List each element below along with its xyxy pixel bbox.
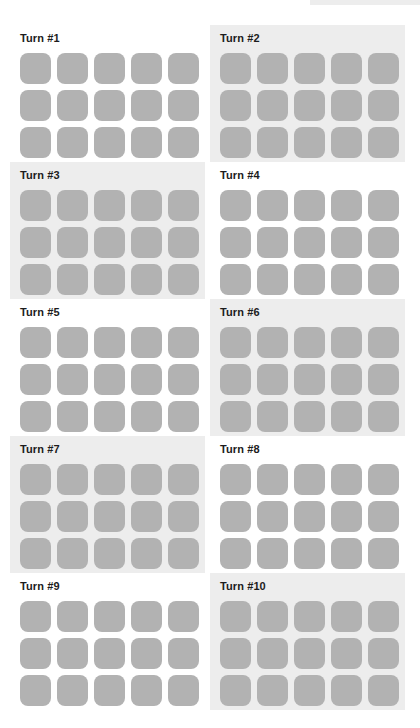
grid-tile[interactable] bbox=[20, 675, 51, 706]
grid-tile[interactable] bbox=[257, 90, 288, 121]
turn-panel[interactable]: Turn #8 bbox=[210, 436, 405, 573]
turn-panel[interactable]: Turn #2 bbox=[210, 25, 405, 162]
grid-tile[interactable] bbox=[131, 538, 162, 569]
grid-tile[interactable] bbox=[168, 264, 199, 295]
grid-tile[interactable] bbox=[294, 127, 325, 158]
grid-tile[interactable] bbox=[168, 53, 199, 84]
grid-tile[interactable] bbox=[131, 90, 162, 121]
grid-tile[interactable] bbox=[168, 190, 199, 221]
grid-tile[interactable] bbox=[94, 264, 125, 295]
grid-tile[interactable] bbox=[57, 364, 88, 395]
grid-tile[interactable] bbox=[57, 53, 88, 84]
grid-tile[interactable] bbox=[168, 538, 199, 569]
grid-tile[interactable] bbox=[94, 90, 125, 121]
grid-tile[interactable] bbox=[220, 53, 251, 84]
grid-tile[interactable] bbox=[94, 638, 125, 669]
grid-tile[interactable] bbox=[368, 675, 399, 706]
grid-tile[interactable] bbox=[368, 364, 399, 395]
turn-panel[interactable]: Turn #6 bbox=[210, 299, 405, 436]
grid-tile[interactable] bbox=[294, 364, 325, 395]
grid-tile[interactable] bbox=[131, 227, 162, 258]
grid-tile[interactable] bbox=[168, 364, 199, 395]
grid-tile[interactable] bbox=[20, 90, 51, 121]
grid-tile[interactable] bbox=[57, 538, 88, 569]
grid-tile[interactable] bbox=[368, 127, 399, 158]
grid-tile[interactable] bbox=[94, 464, 125, 495]
turn-panel[interactable]: Turn #9 bbox=[10, 573, 205, 710]
grid-tile[interactable] bbox=[57, 264, 88, 295]
grid-tile[interactable] bbox=[257, 538, 288, 569]
grid-tile[interactable] bbox=[368, 464, 399, 495]
turn-panel[interactable]: Turn #7 bbox=[10, 436, 205, 573]
grid-tile[interactable] bbox=[331, 675, 362, 706]
grid-tile[interactable] bbox=[20, 364, 51, 395]
grid-tile[interactable] bbox=[131, 638, 162, 669]
grid-tile[interactable] bbox=[20, 501, 51, 532]
grid-tile[interactable] bbox=[331, 53, 362, 84]
grid-tile[interactable] bbox=[257, 638, 288, 669]
grid-tile[interactable] bbox=[20, 464, 51, 495]
grid-tile[interactable] bbox=[331, 264, 362, 295]
grid-tile[interactable] bbox=[57, 638, 88, 669]
grid-tile[interactable] bbox=[20, 227, 51, 258]
turn-panel[interactable]: Turn #5 bbox=[10, 299, 205, 436]
grid-tile[interactable] bbox=[294, 327, 325, 358]
grid-tile[interactable] bbox=[94, 53, 125, 84]
grid-tile[interactable] bbox=[20, 538, 51, 569]
grid-tile[interactable] bbox=[294, 90, 325, 121]
grid-tile[interactable] bbox=[57, 675, 88, 706]
grid-tile[interactable] bbox=[368, 190, 399, 221]
grid-tile[interactable] bbox=[331, 90, 362, 121]
grid-tile[interactable] bbox=[257, 227, 288, 258]
grid-tile[interactable] bbox=[57, 127, 88, 158]
grid-tile[interactable] bbox=[220, 675, 251, 706]
grid-tile[interactable] bbox=[57, 464, 88, 495]
grid-tile[interactable] bbox=[368, 90, 399, 121]
grid-tile[interactable] bbox=[94, 675, 125, 706]
grid-tile[interactable] bbox=[20, 264, 51, 295]
grid-tile[interactable] bbox=[368, 327, 399, 358]
grid-tile[interactable] bbox=[331, 464, 362, 495]
grid-tile[interactable] bbox=[257, 401, 288, 432]
grid-tile[interactable] bbox=[94, 364, 125, 395]
grid-tile[interactable] bbox=[131, 401, 162, 432]
grid-tile[interactable] bbox=[220, 364, 251, 395]
grid-tile[interactable] bbox=[257, 190, 288, 221]
grid-tile[interactable] bbox=[331, 364, 362, 395]
grid-tile[interactable] bbox=[20, 401, 51, 432]
grid-tile[interactable] bbox=[368, 227, 399, 258]
grid-tile[interactable] bbox=[220, 264, 251, 295]
grid-tile[interactable] bbox=[257, 327, 288, 358]
grid-tile[interactable] bbox=[331, 327, 362, 358]
grid-tile[interactable] bbox=[331, 638, 362, 669]
grid-tile[interactable] bbox=[168, 464, 199, 495]
grid-tile[interactable] bbox=[220, 190, 251, 221]
grid-tile[interactable] bbox=[294, 464, 325, 495]
grid-tile[interactable] bbox=[294, 638, 325, 669]
grid-tile[interactable] bbox=[368, 538, 399, 569]
grid-tile[interactable] bbox=[220, 401, 251, 432]
grid-tile[interactable] bbox=[220, 127, 251, 158]
grid-tile[interactable] bbox=[20, 638, 51, 669]
grid-tile[interactable] bbox=[294, 53, 325, 84]
grid-tile[interactable] bbox=[131, 327, 162, 358]
grid-tile[interactable] bbox=[57, 601, 88, 632]
grid-tile[interactable] bbox=[294, 190, 325, 221]
grid-tile[interactable] bbox=[168, 127, 199, 158]
grid-tile[interactable] bbox=[294, 401, 325, 432]
grid-tile[interactable] bbox=[220, 464, 251, 495]
grid-tile[interactable] bbox=[131, 601, 162, 632]
grid-tile[interactable] bbox=[331, 127, 362, 158]
grid-tile[interactable] bbox=[257, 501, 288, 532]
grid-tile[interactable] bbox=[168, 90, 199, 121]
grid-tile[interactable] bbox=[368, 501, 399, 532]
grid-tile[interactable] bbox=[131, 364, 162, 395]
grid-tile[interactable] bbox=[368, 53, 399, 84]
grid-tile[interactable] bbox=[20, 601, 51, 632]
grid-tile[interactable] bbox=[131, 464, 162, 495]
grid-tile[interactable] bbox=[331, 501, 362, 532]
grid-tile[interactable] bbox=[131, 127, 162, 158]
grid-tile[interactable] bbox=[257, 601, 288, 632]
turn-panel[interactable]: Turn #10 bbox=[210, 573, 405, 710]
grid-tile[interactable] bbox=[331, 538, 362, 569]
